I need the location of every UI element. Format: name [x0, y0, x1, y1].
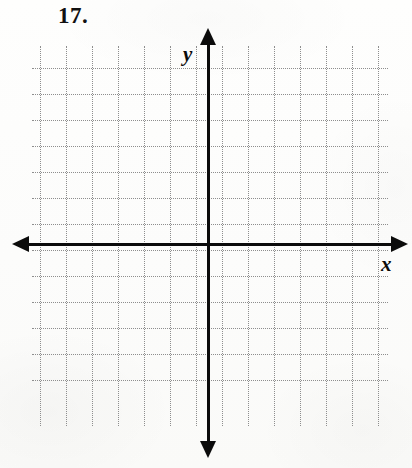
- gridline-vertical: [196, 46, 197, 426]
- gridline-vertical: [92, 46, 93, 426]
- coordinate-grid: [0, 0, 412, 468]
- gridline-vertical: [378, 46, 379, 426]
- gridline-vertical: [300, 46, 301, 426]
- y-axis-up-arrow-icon: [200, 28, 216, 45]
- gridline-vertical: [352, 46, 353, 426]
- worksheet-page: 17. y x: [0, 0, 412, 468]
- gridline-horizontal: [32, 198, 388, 199]
- x-axis-left-arrow-icon: [12, 236, 29, 252]
- gridline-horizontal: [32, 354, 388, 355]
- gridline-vertical: [40, 46, 41, 426]
- gridline-horizontal: [32, 94, 388, 95]
- gridline-horizontal: [32, 172, 388, 173]
- gridline-horizontal: [32, 302, 388, 303]
- y-axis-label: y: [183, 44, 192, 65]
- gridline-horizontal: [32, 146, 388, 147]
- gridline-horizontal: [32, 224, 388, 225]
- gridline-vertical: [118, 46, 119, 426]
- x-axis-line: [28, 243, 392, 246]
- x-axis-label: x: [381, 254, 392, 275]
- gridline-vertical: [222, 46, 223, 426]
- gridline-vertical: [66, 46, 67, 426]
- gridline-vertical: [144, 46, 145, 426]
- gridline-vertical: [170, 46, 171, 426]
- gridline-horizontal: [32, 380, 388, 381]
- x-axis-right-arrow-icon: [391, 236, 408, 252]
- gridline-horizontal: [32, 328, 388, 329]
- y-axis-line: [207, 44, 210, 442]
- gridline-horizontal: [32, 120, 388, 121]
- gridline-horizontal: [32, 276, 388, 277]
- gridline-horizontal: [32, 250, 388, 251]
- gridline-vertical: [248, 46, 249, 426]
- gridline-vertical: [274, 46, 275, 426]
- gridline-vertical: [326, 46, 327, 426]
- gridline-horizontal: [32, 68, 388, 69]
- y-axis-down-arrow-icon: [200, 441, 216, 458]
